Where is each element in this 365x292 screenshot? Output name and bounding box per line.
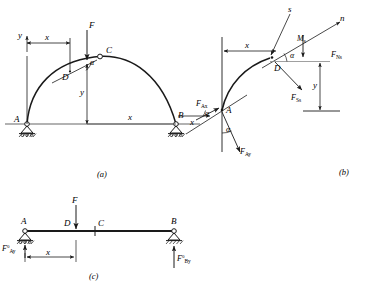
- panel-b-arch-segment: [222, 58, 270, 110]
- panel-b-label-x-axis: x: [190, 118, 194, 127]
- panel-b-label-x-dimension: x: [245, 41, 249, 50]
- panel-a-geometry: [5, 30, 200, 137]
- panel-b-point-d: [271, 56, 274, 59]
- panel-b-label-reaction-x: FAx: [196, 100, 208, 108]
- panel-c-label-b: B: [171, 217, 177, 226]
- panel-b-alpha-arc-d: [284, 54, 287, 62]
- panel-a-label-alpha: α: [90, 59, 94, 67]
- panel-a-hinge-c: [98, 54, 103, 59]
- panel-b-s-axis: [271, 14, 290, 55]
- panel-a-label-x-bottom: x: [128, 113, 132, 122]
- panel-c-label-right-reaction: F0By: [177, 255, 191, 263]
- panel-b-label-s-axis: s: [288, 5, 292, 14]
- panel-a-arch-curve: [27, 56, 176, 124]
- panel-c-label-left-reaction: F0Ay: [2, 245, 16, 253]
- panel-b-label-y-dimension: y: [313, 81, 317, 90]
- panel-a-label-y-rise: y: [80, 88, 84, 97]
- panel-a-label-y-axis: y: [18, 31, 22, 40]
- panel-b-label-shear-force: FSs: [291, 94, 301, 102]
- panel-b-label-normal-force: FNs: [331, 51, 342, 59]
- caption-b: (b): [339, 168, 349, 177]
- panel-b-label-alpha-d: α: [290, 52, 294, 60]
- panel-a-point-d: [69, 70, 71, 72]
- panel-a-label-a: A: [14, 115, 20, 124]
- panel-b-point-a: [221, 109, 224, 112]
- panel-b-label-alpha-a-upper: α: [205, 110, 209, 118]
- panel-b-label-n-axis: n: [340, 14, 345, 23]
- panel-c-label-d: D: [64, 219, 71, 228]
- panel-a-label-d: D: [62, 73, 69, 82]
- panel-b-label-alpha-a-lower: α: [226, 126, 230, 134]
- panel-a-label-load-f: F: [89, 21, 95, 30]
- panel-c-label-x-dimension: x: [46, 248, 50, 257]
- panel-a-label-x-top: x: [45, 33, 49, 42]
- panel-c-label-load-f: F: [72, 196, 78, 205]
- panel-b-reaction-y-arrow: [222, 112, 240, 152]
- caption-a: (a): [97, 170, 107, 179]
- panel-a-label-b: B: [178, 111, 184, 120]
- panel-b-label-reaction-y: FAy: [240, 148, 251, 156]
- panel-b-label-moment: Ms: [297, 35, 306, 43]
- figure-canvas: A B C D y x x y F α (a) s n x y x D A α …: [0, 0, 365, 292]
- panel-a-label-c: C: [106, 46, 112, 55]
- panel-c-label-a: A: [21, 217, 27, 226]
- panel-c-geometry: [17, 205, 183, 268]
- panel-c-label-c: C: [98, 219, 104, 228]
- panel-b-label-d: D: [274, 64, 281, 73]
- figure-vector-layer: [0, 0, 365, 292]
- panel-b-label-a: A: [226, 106, 232, 115]
- caption-c: (c): [89, 272, 98, 281]
